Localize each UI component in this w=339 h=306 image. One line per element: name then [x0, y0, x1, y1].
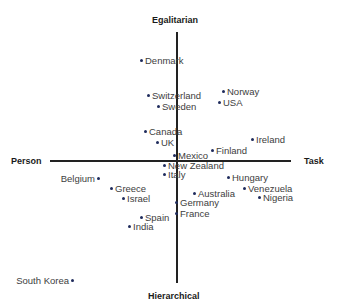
- country-label: Switzerland: [152, 90, 201, 101]
- dot-marker-icon: [140, 59, 143, 62]
- dot-marker-icon: [218, 101, 221, 104]
- country-point-canada: Canada: [144, 126, 182, 137]
- dot-marker-icon: [211, 149, 214, 152]
- country-label: Israel: [127, 193, 150, 204]
- country-label: Italy: [168, 169, 185, 180]
- country-label: Germany: [180, 197, 219, 208]
- country-point-usa: USA: [218, 97, 243, 108]
- country-label: Denmark: [145, 55, 184, 66]
- country-point-switzerland: Switzerland: [147, 90, 201, 101]
- country-point-nigeria: Nigeria: [258, 192, 293, 203]
- dot-marker-icon: [140, 216, 143, 219]
- dot-marker-icon: [144, 130, 147, 133]
- axis-label-left: Person: [11, 156, 42, 166]
- dot-marker-icon: [163, 164, 166, 167]
- country-point-israel: Israel: [122, 193, 150, 204]
- dot-marker-icon: [175, 212, 178, 215]
- country-label: Norway: [227, 86, 259, 97]
- country-label: UK: [161, 137, 174, 148]
- country-point-germany: Germany: [175, 197, 219, 208]
- country-point-finland: Finland: [211, 145, 247, 156]
- country-label: Ireland: [256, 134, 285, 145]
- country-point-south-korea: South Korea: [16, 275, 74, 286]
- country-point-italy: Italy: [163, 169, 185, 180]
- dot-marker-icon: [147, 94, 150, 97]
- dot-marker-icon: [157, 105, 160, 108]
- country-label: Hungary: [232, 172, 268, 183]
- country-label: Sweden: [162, 101, 196, 112]
- country-label: South Korea: [16, 275, 69, 286]
- country-point-uk: UK: [156, 137, 174, 148]
- country-point-belgium: Belgium: [61, 173, 100, 184]
- country-point-india: India: [128, 221, 154, 232]
- country-label: Finland: [216, 145, 247, 156]
- country-label: USA: [223, 97, 243, 108]
- dot-marker-icon: [258, 196, 261, 199]
- dot-marker-icon: [243, 187, 246, 190]
- dot-marker-icon: [71, 279, 74, 282]
- axis-label-right: Task: [304, 156, 324, 166]
- axis-label-top: Egalitarian: [152, 15, 198, 25]
- country-label: India: [133, 221, 154, 232]
- dot-marker-icon: [173, 154, 176, 157]
- dot-marker-icon: [110, 187, 113, 190]
- country-point-france: France: [175, 208, 210, 219]
- dot-marker-icon: [193, 192, 196, 195]
- country-label: Nigeria: [263, 192, 293, 203]
- country-point-denmark: Denmark: [140, 55, 184, 66]
- country-label: Belgium: [61, 173, 95, 184]
- dot-marker-icon: [97, 177, 100, 180]
- country-label: France: [180, 208, 210, 219]
- dot-marker-icon: [251, 138, 254, 141]
- country-label: Canada: [149, 126, 182, 137]
- country-point-ireland: Ireland: [251, 134, 285, 145]
- cultural-map-diagram: Egalitarian Hierarchical Person Task Den…: [0, 0, 339, 306]
- dot-marker-icon: [222, 90, 225, 93]
- axis-label-bottom: Hierarchical: [148, 291, 200, 301]
- country-point-norway: Norway: [222, 86, 259, 97]
- country-point-sweden: Sweden: [157, 101, 196, 112]
- dot-marker-icon: [175, 201, 178, 204]
- dot-marker-icon: [227, 176, 230, 179]
- country-point-hungary: Hungary: [227, 172, 268, 183]
- dot-marker-icon: [163, 173, 166, 176]
- dot-marker-icon: [122, 197, 125, 200]
- dot-marker-icon: [128, 225, 131, 228]
- dot-marker-icon: [156, 141, 159, 144]
